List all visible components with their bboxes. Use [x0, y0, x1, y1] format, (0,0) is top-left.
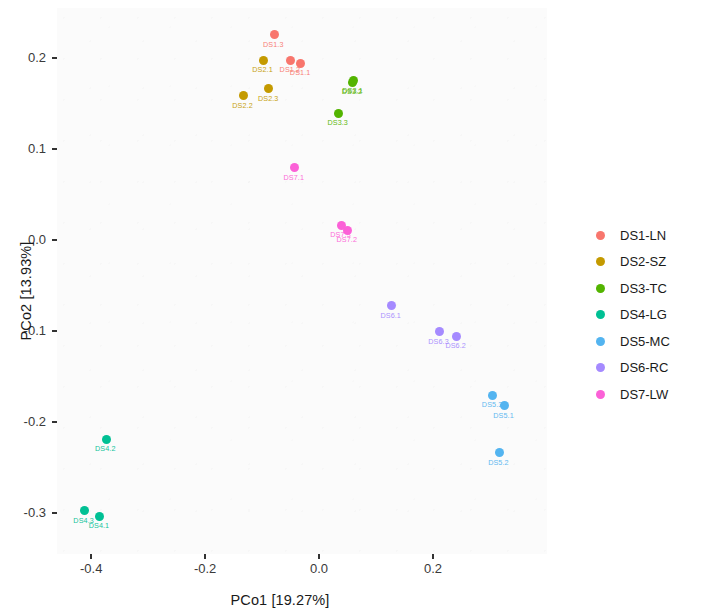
legend-swatch-icon [596, 284, 605, 293]
data-point[interactable] [286, 56, 295, 65]
data-point[interactable] [270, 30, 279, 39]
data-point[interactable] [348, 78, 357, 87]
data-point-label: DS6.1 [380, 311, 400, 320]
data-point-label: DS3.2 [342, 87, 362, 96]
legend-item-label: DS3-TC [620, 281, 667, 296]
data-point[interactable] [80, 506, 89, 515]
data-point[interactable] [259, 56, 268, 65]
legend-item-label: DS2-SZ [620, 254, 666, 269]
y-tick-label: 0.2 [0, 50, 46, 65]
y-tick-mark [52, 512, 57, 514]
data-point[interactable] [452, 332, 461, 341]
legend-item-ds7-lw[interactable]: DS7-LW [596, 381, 709, 408]
data-point-label: DS5.1 [493, 411, 513, 420]
y-axis-title: PCo2 [13.93%] [18, 181, 34, 401]
data-point[interactable] [296, 59, 305, 68]
legend-swatch-icon [596, 257, 605, 266]
x-tick-label: 0.0 [289, 561, 349, 576]
data-point[interactable] [102, 435, 111, 444]
data-point-label: DS2.3 [258, 94, 278, 103]
legend-item-ds5-mc[interactable]: DS5-MC [596, 328, 709, 355]
data-point[interactable] [95, 512, 104, 521]
x-tick-mark [204, 554, 206, 559]
data-point-label: DS3.3 [327, 118, 347, 127]
legend-item-ds1-ln[interactable]: DS1-LN [596, 222, 709, 249]
data-point-label: DS7.1 [284, 173, 304, 182]
legend-swatch-icon [596, 337, 605, 346]
legend-swatch-icon [596, 363, 605, 372]
x-tick-mark [432, 554, 434, 559]
data-point[interactable] [290, 163, 299, 172]
legend-item-label: DS5-MC [620, 334, 670, 349]
y-tick-mark [52, 239, 57, 241]
y-tick-mark [52, 330, 57, 332]
data-point[interactable] [343, 226, 352, 235]
data-point[interactable] [435, 327, 444, 336]
legend-item-label: DS6-RC [620, 360, 668, 375]
data-point[interactable] [488, 391, 497, 400]
y-tick-mark [52, 57, 57, 59]
data-point-label: DS4.2 [95, 444, 115, 453]
data-point[interactable] [239, 91, 248, 100]
y-tick-mark [52, 421, 57, 423]
legend-item-label: DS7-LW [620, 387, 668, 402]
data-point[interactable] [387, 301, 396, 310]
x-tick-label: -0.4 [61, 561, 121, 576]
legend-item-label: DS4-LG [620, 307, 667, 322]
data-point-label: DS4.1 [89, 521, 109, 530]
data-point[interactable] [334, 109, 343, 118]
panel-background-texture [57, 8, 547, 554]
data-point-label: DS6.2 [445, 341, 465, 350]
data-point-label: DS5.2 [488, 458, 508, 467]
legend-item-ds2-sz[interactable]: DS2-SZ [596, 249, 709, 276]
legend-item-ds4-lg[interactable]: DS4-LG [596, 302, 709, 329]
legend-swatch-icon [596, 231, 605, 240]
data-point[interactable] [264, 84, 273, 93]
plot-panel: DS1.3DS1.2DS1.1DS2.1DS2.3DS2.2DS3.1DS3.2… [57, 8, 547, 554]
data-point[interactable] [500, 401, 509, 410]
y-tick-label: 0.1 [0, 141, 46, 156]
x-tick-label: -0.2 [175, 561, 235, 576]
x-tick-mark [318, 554, 320, 559]
legend: DS1-LNDS2-SZDS3-TCDS4-LGDS5-MCDS6-RCDS7-… [596, 222, 709, 408]
legend-item-label: DS1-LN [620, 228, 666, 243]
y-tick-label: -0.2 [0, 414, 46, 429]
y-tick-label: -0.3 [0, 505, 46, 520]
legend-swatch-icon [596, 310, 605, 319]
pcoa-scatter-figure: DS1.3DS1.2DS1.1DS2.1DS2.3DS2.2DS3.1DS3.2… [0, 0, 709, 615]
legend-item-ds6-rc[interactable]: DS6-RC [596, 355, 709, 382]
data-point-label: DS1.3 [263, 40, 283, 49]
data-point-label: DS7.2 [337, 235, 357, 244]
data-point-label: DS2.1 [252, 65, 272, 74]
data-point[interactable] [495, 448, 504, 457]
x-axis-title: PCo1 [19.27%] [0, 592, 560, 608]
x-tick-label: 0.2 [403, 561, 463, 576]
data-point-label: DS2.2 [232, 101, 252, 110]
x-tick-mark [90, 554, 92, 559]
data-point-label: DS1.1 [290, 68, 310, 77]
y-tick-mark [52, 148, 57, 150]
legend-swatch-icon [596, 390, 605, 399]
legend-item-ds3-tc[interactable]: DS3-TC [596, 275, 709, 302]
